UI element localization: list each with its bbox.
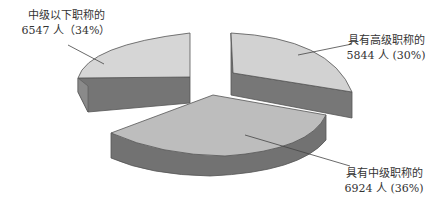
label-category: 具有高级职称的 [330, 33, 442, 48]
label-value: 6547 人（34%） [6, 23, 126, 38]
label-intermediate: 具有中级职称的 6924 人 (36%) [328, 166, 440, 196]
label-mid-lower: 中级以下职称的 6547 人（34%） [6, 8, 126, 38]
label-value: 6924 人 (36%) [328, 181, 440, 196]
slice-mid-lower [78, 33, 190, 112]
leader-line-mid-lower [68, 45, 104, 64]
label-value: 5844 人 (30%) [330, 48, 442, 63]
label-category: 具有中级职称的 [328, 166, 440, 181]
label-category: 中级以下职称的 [6, 8, 126, 23]
label-senior: 具有高级职称的 5844 人 (30%) [330, 33, 442, 63]
